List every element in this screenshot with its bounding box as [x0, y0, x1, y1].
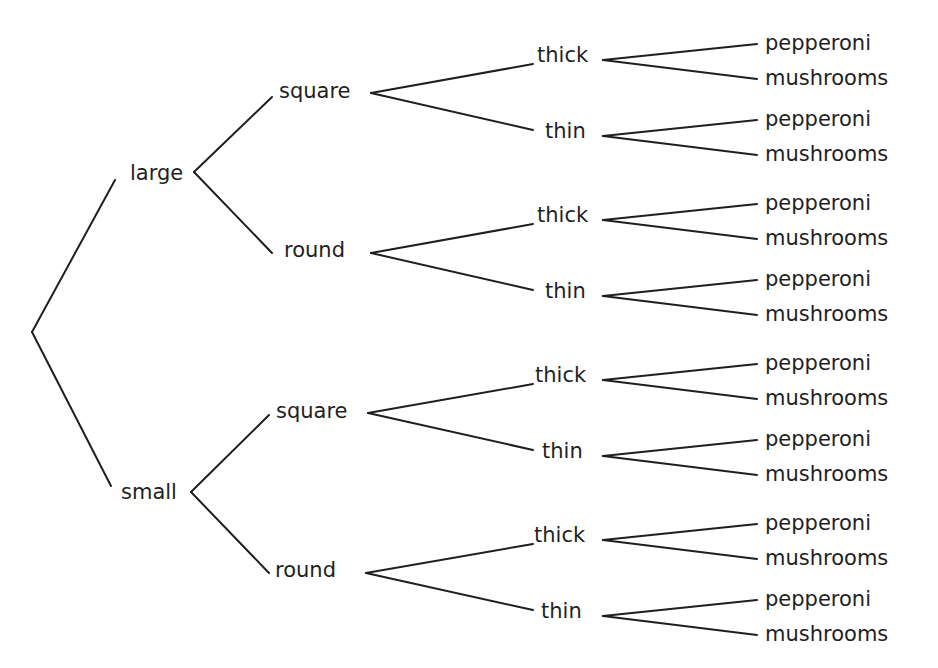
branch-square-thin [371, 93, 533, 130]
leaf-mushrooms: mushrooms [765, 226, 888, 250]
branch-round-thin [371, 253, 533, 290]
branch-root-small [32, 332, 111, 486]
leaf-mushrooms: mushrooms [765, 546, 888, 570]
branch-small-square [191, 415, 269, 492]
branch-thin-mushrooms [603, 616, 757, 635]
leaf-pepperoni: pepperoni [765, 351, 871, 375]
branch-round-thick [366, 544, 533, 573]
node-size-large: large [130, 161, 183, 185]
node-shape-round: round [275, 558, 336, 582]
branch-round-thick [371, 224, 533, 253]
branch-thin-mushrooms [603, 296, 757, 315]
branch-thick-mushrooms [603, 380, 757, 399]
node-crust-thick: thick [537, 203, 589, 227]
branch-thick-pepperoni [603, 524, 757, 540]
node-crust-thick: thick [537, 43, 589, 67]
leaf-pepperoni: pepperoni [765, 191, 871, 215]
branch-thick-mushrooms [603, 220, 757, 239]
node-crust-thin: thin [545, 279, 586, 303]
leaf-pepperoni: pepperoni [765, 511, 871, 535]
leaf-mushrooms: mushrooms [765, 66, 888, 90]
leaf-mushrooms: mushrooms [765, 302, 888, 326]
leaf-mushrooms: mushrooms [765, 462, 888, 486]
branch-thin-pepperoni [603, 600, 757, 616]
leaf-mushrooms: mushrooms [765, 622, 888, 646]
node-crust-thin: thin [542, 439, 583, 463]
branch-small-round [191, 492, 269, 573]
branch-thin-mushrooms [603, 136, 757, 155]
branch-thick-pepperoni [603, 44, 757, 60]
leaf-pepperoni: pepperoni [765, 107, 871, 131]
leaf-pepperoni: pepperoni [765, 587, 871, 611]
branch-square-thick [371, 64, 533, 93]
tree-diagram: largesquarethickpepperonimushroomsthinpe… [0, 0, 938, 668]
branch-thick-mushrooms [603, 60, 757, 79]
branch-thin-pepperoni [603, 120, 757, 136]
branch-thick-pepperoni [603, 204, 757, 220]
node-crust-thin: thin [545, 119, 586, 143]
branch-round-thin [366, 573, 533, 610]
branch-square-thick [368, 384, 533, 413]
leaf-mushrooms: mushrooms [765, 142, 888, 166]
leaf-mushrooms: mushrooms [765, 386, 888, 410]
node-crust-thin: thin [541, 599, 582, 623]
branch-thin-pepperoni [603, 440, 757, 456]
leaf-pepperoni: pepperoni [765, 31, 871, 55]
branch-thick-mushrooms [603, 540, 757, 559]
node-crust-thick: thick [535, 363, 587, 387]
node-shape-round: round [284, 238, 345, 262]
leaf-pepperoni: pepperoni [765, 427, 871, 451]
branch-root-large [32, 180, 115, 332]
branch-thin-mushrooms [603, 456, 757, 475]
leaf-pepperoni: pepperoni [765, 267, 871, 291]
branch-large-square [194, 97, 272, 172]
branch-thick-pepperoni [603, 364, 757, 380]
branch-square-thin [368, 413, 533, 450]
node-crust-thick: thick [534, 523, 586, 547]
branch-large-round [194, 172, 272, 253]
node-shape-square: square [276, 399, 348, 423]
branch-thin-pepperoni [603, 280, 757, 296]
node-shape-square: square [279, 79, 351, 103]
node-size-small: small [121, 480, 177, 504]
